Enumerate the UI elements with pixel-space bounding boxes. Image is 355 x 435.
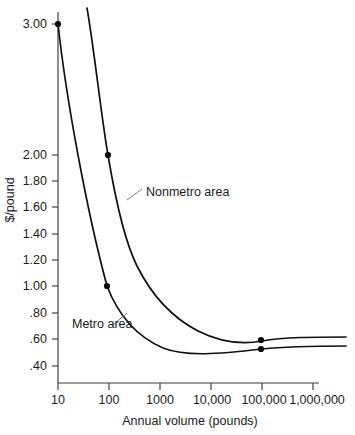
annotation-nonmetro: Nonmetro area: [127, 185, 229, 200]
x-axis-title: Annual volume (pounds): [122, 414, 258, 428]
data-point-marker: [104, 283, 110, 289]
x-tick-label: 1,000,000: [289, 393, 345, 407]
series-label-nonmetro: Nonmetro area: [146, 185, 229, 199]
x-tick-label: 1000: [146, 393, 174, 407]
y-tick-label: 3.00: [23, 17, 47, 31]
y-tick-label: 1.40: [23, 227, 47, 241]
x-axis-ticks: 10 100 1000 10,000 100,000 1,000,000: [51, 383, 345, 407]
data-point-marker: [55, 21, 61, 27]
y-tick-label: 1.00: [23, 279, 47, 293]
x-tick-label: 10,000: [193, 393, 231, 407]
data-point-marker: [105, 152, 111, 158]
x-tick-label: 100,000: [241, 393, 286, 407]
y-axis-title: $/pound: [3, 177, 17, 222]
data-point-marker: [258, 337, 264, 343]
y-tick-label: 1.80: [23, 174, 47, 188]
x-tick-label: 100: [99, 393, 120, 407]
y-tick-label: 2.00: [23, 148, 47, 162]
y-axis-ticks: 3.00 2.00 1.80 1.60 1.40 1.20 1.00 .80 .…: [23, 17, 58, 373]
data-point-marker: [258, 346, 264, 352]
y-tick-label: 1.20: [23, 253, 47, 267]
chart-container: 3.00 2.00 1.80 1.60 1.40 1.20 1.00 .80 .…: [0, 0, 355, 435]
y-tick-label: .80: [30, 306, 47, 320]
x-tick-label: 10: [51, 393, 65, 407]
y-tick-label: .40: [30, 359, 47, 373]
curve-nonmetro: [87, 8, 346, 343]
annotation-metro: Metro area: [72, 313, 132, 331]
chart-plot-area: 3.00 2.00 1.80 1.60 1.40 1.20 1.00 .80 .…: [0, 0, 355, 435]
y-tick-label: 1.60: [23, 200, 47, 214]
leader-line-nonmetro: [127, 189, 142, 200]
series-label-metro: Metro area: [72, 317, 132, 331]
y-tick-label: .60: [30, 332, 47, 346]
